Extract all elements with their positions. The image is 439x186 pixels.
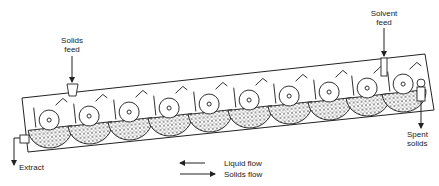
solvent-feed-nozzle: [381, 58, 387, 76]
solvent-feed-label: Solvent feed: [366, 9, 402, 27]
extract-outlet: [20, 135, 29, 143]
solvent-feed-label-line1: Solvent: [366, 9, 402, 18]
liquid-flow-label: Liquid flow: [224, 159, 262, 168]
solids-feed-label-line1: Solids: [58, 36, 86, 45]
wheel-6: [225, 78, 274, 130]
solids-feed-hopper: [67, 84, 78, 96]
wheel-8: [305, 70, 354, 122]
wheel-1: [25, 98, 74, 150]
solvent-feed-label-line2: feed: [366, 18, 402, 27]
wheel-4: [145, 86, 194, 138]
extractor-diagram: [0, 0, 439, 186]
wheel-5: [185, 82, 234, 134]
extract-label: Extract: [19, 163, 44, 172]
spent-solids-label: Spent solids: [407, 130, 428, 148]
extract-arrow: [14, 138, 20, 165]
wheel-3: [105, 90, 154, 142]
wheel-row: [25, 62, 428, 150]
spent-solids-label-line1: Spent: [407, 130, 428, 139]
wheel-7: [265, 74, 314, 126]
solids-flow-label: Solids flow: [224, 170, 262, 179]
spent-solids-outlet: [417, 79, 425, 101]
solids-feed-label-line2: feed: [58, 45, 86, 54]
solids-feed-label: Solids feed: [58, 36, 86, 54]
spent-solids-label-line2: solids: [407, 139, 428, 148]
wheel-2: [65, 94, 114, 146]
